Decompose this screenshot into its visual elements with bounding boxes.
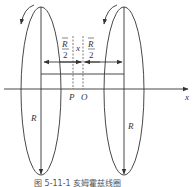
offset-label: x	[75, 43, 80, 53]
point-p-label: P	[68, 92, 75, 102]
point-o-label: O	[81, 92, 88, 102]
right-current-arrow-icon	[104, 5, 117, 24]
x-axis-label: x	[184, 92, 189, 102]
right-half-separation-label: R 2	[87, 38, 95, 60]
frac-denominator: 2	[89, 50, 94, 60]
frac-numerator: R	[61, 39, 68, 49]
helmholtz-diagram: R 2 x R 2 P O x R R 图 5-11-1 亥姆霍兹线圈	[0, 0, 193, 187]
left-current-arrow-icon	[21, 5, 34, 24]
frac-denominator: 2	[63, 50, 68, 60]
left-half-separation-label: R 2	[61, 38, 69, 60]
left-radius-label: R	[30, 113, 37, 123]
right-radius-label: R	[127, 121, 134, 131]
figure-caption: 图 5-11-1 亥姆霍兹线圈	[34, 178, 121, 187]
frac-numerator: R	[87, 39, 94, 49]
